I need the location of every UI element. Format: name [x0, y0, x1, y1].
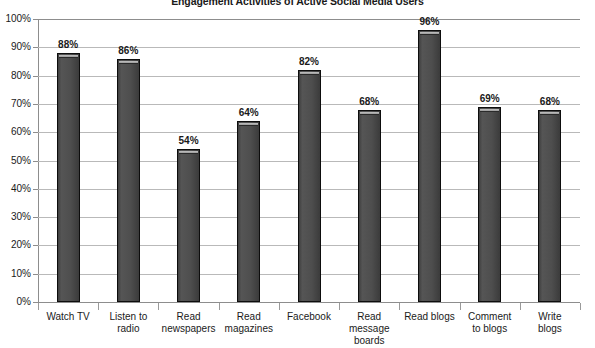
- bar-slot: 86%: [117, 19, 140, 302]
- x-axis-label-line: Write: [520, 311, 580, 323]
- bar-value-label: 88%: [43, 39, 94, 50]
- y-axis-label: 20%: [0, 240, 31, 250]
- bar-top-highlight: [59, 55, 78, 58]
- y-axis-label: 10%: [0, 269, 31, 279]
- x-axis-label: Facebook: [279, 311, 339, 323]
- plot-area: 88%86%54%64%82%68%96%69%68%: [38, 19, 580, 302]
- x-axis-label: Readmagazines: [219, 311, 279, 335]
- x-axis-label-line: Read: [158, 311, 218, 323]
- y-axis-label: 60%: [0, 127, 31, 137]
- x-axis-tick: [339, 303, 340, 310]
- x-axis-label: Writeblogs: [520, 311, 580, 335]
- x-axis-label-line: Comment: [460, 311, 520, 323]
- bar-slot: 64%: [237, 19, 260, 302]
- x-axis-tick: [279, 303, 280, 310]
- y-axis-label: 30%: [0, 212, 31, 222]
- bar-top-highlight: [360, 112, 379, 115]
- x-axis-label-line: blogs: [520, 323, 580, 335]
- x-axis-label: Commentto blogs: [460, 311, 520, 335]
- bar[interactable]: [418, 30, 441, 302]
- x-axis-tick: [219, 303, 220, 310]
- bar-top-highlight: [119, 61, 138, 64]
- x-axis-tick: [580, 303, 581, 310]
- x-axis-label-line: to blogs: [460, 323, 520, 335]
- bar-value-label: 86%: [103, 45, 154, 56]
- x-axis-label: Watch TV: [38, 311, 98, 323]
- bar-slot: 68%: [358, 19, 381, 302]
- x-axis-label: Read blogs: [399, 311, 459, 323]
- bar-top-highlight: [540, 112, 559, 115]
- bar-top-highlight: [179, 151, 198, 154]
- y-axis-label: 80%: [0, 71, 31, 81]
- bar[interactable]: [358, 110, 381, 302]
- x-axis-line: [38, 302, 580, 303]
- bar-chart: Engagement Activities of Active Social M…: [0, 0, 595, 348]
- bar[interactable]: [237, 121, 260, 302]
- bar-slot: 82%: [298, 19, 321, 302]
- bar[interactable]: [478, 107, 501, 302]
- x-axis-tick: [399, 303, 400, 310]
- x-axis-label-line: boards: [339, 335, 399, 347]
- y-axis-label: 90%: [0, 42, 31, 52]
- bar-slot: 96%: [418, 19, 441, 302]
- bar[interactable]: [538, 110, 561, 302]
- bar[interactable]: [177, 149, 200, 302]
- x-axis-label-line: magazines: [219, 323, 279, 335]
- x-axis-label: Listen toradio: [98, 311, 158, 335]
- bar[interactable]: [117, 59, 140, 302]
- x-axis-tick: [158, 303, 159, 310]
- bar-value-label: 64%: [223, 107, 274, 118]
- y-axis-label: 0%: [0, 297, 31, 307]
- y-axis-label: 70%: [0, 99, 31, 109]
- x-axis-label: Readnewspapers: [158, 311, 218, 335]
- x-axis-label-line: Read blogs: [399, 311, 459, 323]
- x-axis-tick: [98, 303, 99, 310]
- x-axis-label-line: newspapers: [158, 323, 218, 335]
- x-axis-origin-tick: [38, 303, 39, 310]
- y-axis-label: 100%: [0, 14, 31, 24]
- x-axis-label-line: message: [339, 323, 399, 335]
- x-axis-label-line: Facebook: [279, 311, 339, 323]
- bar-value-label: 68%: [524, 96, 575, 107]
- bar-top-highlight: [420, 32, 439, 35]
- x-axis-label-line: radio: [98, 323, 158, 335]
- bar-slot: 68%: [538, 19, 561, 302]
- x-axis-label-line: Read: [219, 311, 279, 323]
- x-axis-tick: [520, 303, 521, 310]
- bar-value-label: 82%: [284, 56, 335, 67]
- bar-top-highlight: [239, 123, 258, 126]
- y-axis-label: 40%: [0, 184, 31, 194]
- bar[interactable]: [57, 53, 80, 302]
- bar-value-label: 54%: [163, 135, 214, 146]
- x-axis-label-line: Listen to: [98, 311, 158, 323]
- x-axis-label-line: Watch TV: [38, 311, 98, 323]
- bar-value-label: 96%: [404, 16, 455, 27]
- x-axis-label-line: Read: [339, 311, 399, 323]
- bar-value-label: 69%: [464, 93, 515, 104]
- y-axis-label: 50%: [0, 156, 31, 166]
- bar-value-label: 68%: [344, 96, 395, 107]
- bar-slot: 54%: [177, 19, 200, 302]
- chart-title: Engagement Activities of Active Social M…: [0, 0, 595, 7]
- x-axis-label: Readmessageboards: [339, 311, 399, 347]
- x-axis-tick: [460, 303, 461, 310]
- bar[interactable]: [298, 70, 321, 302]
- bar-slot: 88%: [57, 19, 80, 302]
- bar-top-highlight: [480, 109, 499, 112]
- bar-slot: 69%: [478, 19, 501, 302]
- bar-top-highlight: [300, 72, 319, 75]
